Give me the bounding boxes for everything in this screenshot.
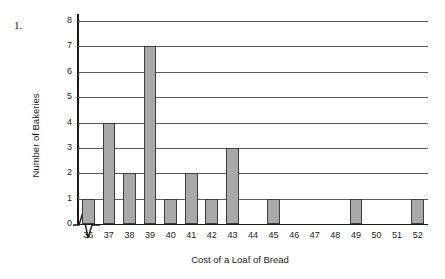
bar-38 — [123, 173, 136, 224]
y-tick-label-4: 4 — [58, 117, 72, 127]
x-tick-label-51: 51 — [387, 230, 408, 240]
x-tick-label-50: 50 — [366, 230, 387, 240]
bar-52 — [411, 199, 424, 224]
x-tick-label-38: 38 — [119, 230, 140, 240]
y-tick-label-3: 3 — [58, 142, 72, 152]
x-tick-label-46: 46 — [284, 230, 305, 240]
x-tick-label-41: 41 — [181, 230, 202, 240]
bar-39 — [144, 46, 157, 224]
x-tick-label-47: 47 — [304, 230, 325, 240]
x-tick-label-44: 44 — [243, 230, 264, 240]
y-tick-label-6: 6 — [58, 66, 72, 76]
x-tick-label-37: 37 — [99, 230, 120, 240]
y-tick-label-7: 7 — [58, 40, 72, 50]
x-tick-label-39: 39 — [140, 230, 161, 240]
bar-chart-plot-area: 012345678 363738394041424344454647484950… — [0, 0, 445, 279]
x-tick-label-49: 49 — [346, 230, 367, 240]
bar-37 — [103, 123, 116, 225]
x-tick-label-42: 42 — [202, 230, 223, 240]
bar-49 — [350, 199, 363, 224]
bar-43 — [226, 148, 239, 224]
y-tick-label-0: 0 — [58, 218, 72, 228]
bar-45 — [267, 199, 280, 224]
x-tick-label-48: 48 — [325, 230, 346, 240]
x-tick-label-43: 43 — [222, 230, 243, 240]
y-tick-label-8: 8 — [58, 15, 72, 25]
y-tick-label-5: 5 — [58, 91, 72, 101]
x-tick-label-45: 45 — [263, 230, 284, 240]
bar-42 — [205, 199, 218, 224]
bar-36 — [82, 199, 95, 224]
y-tick-label-1: 1 — [58, 193, 72, 203]
x-tick-label-36: 36 — [78, 230, 99, 240]
bar-41 — [185, 173, 198, 224]
bar-40 — [164, 199, 177, 224]
x-tick-label-40: 40 — [160, 230, 181, 240]
x-tick-label-52: 52 — [407, 230, 428, 240]
y-tick-label-2: 2 — [58, 167, 72, 177]
